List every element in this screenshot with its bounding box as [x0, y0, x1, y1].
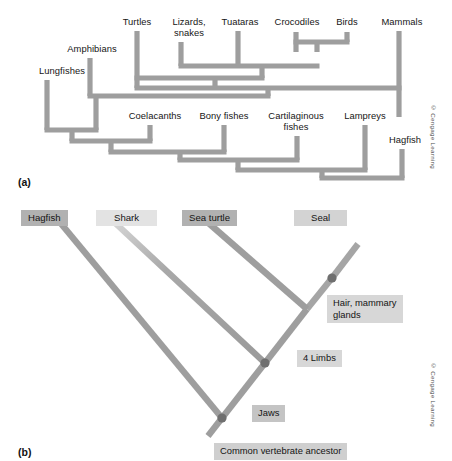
branch-shark: [112, 220, 265, 363]
taxon-box-seal: Seal: [294, 210, 347, 226]
trait-box-hair-mammary: Hair, mammary glands: [327, 295, 403, 323]
taxon-label-hagfish: Hagfish: [374, 135, 436, 146]
taxon-label-amphibians: Amphibians: [40, 44, 144, 55]
panel-b-copyright: © Cengage Learning: [430, 362, 437, 427]
taxon-label-cartilaginous-fishes: Cartilaginous fishes: [252, 111, 340, 132]
node-dot-4limbs: [260, 358, 269, 367]
figure-root: Lungfishes Amphibians Turtles Lizards, s…: [0, 0, 452, 461]
taxon-label-mammals: Mammals: [368, 17, 436, 28]
panel-a-branches: [0, 0, 452, 196]
panel-b-tag: (b): [18, 446, 31, 458]
taxon-box-sea-turtle: Sea turtle: [182, 210, 237, 226]
taxon-label-lampreys: Lampreys: [331, 111, 399, 122]
node-dot-jaws: [217, 413, 226, 422]
branch-sea-turtle: [205, 220, 307, 309]
taxon-label-coelacanths: Coelacanths: [113, 111, 197, 122]
taxon-label-birds: Birds: [320, 17, 374, 28]
taxon-box-hagfish: Hagfish: [21, 210, 68, 226]
trait-box-common-ancestor: Common vertebrate ancestor: [214, 443, 347, 460]
node-dot-hair: [327, 273, 336, 282]
taxon-box-shark: Shark: [96, 210, 157, 226]
branch-seal-tip: [332, 244, 358, 278]
trait-box-4-limbs: 4 Limbs: [297, 350, 342, 367]
panel-a-tag: (a): [18, 176, 31, 188]
panel-b-cladogram: Hagfish Shark Sea turtle Seal Hair, mamm…: [0, 196, 452, 461]
panel-b-branches: [0, 196, 452, 461]
trait-box-jaws: Jaws: [252, 405, 285, 422]
taxon-label-bony-fishes: Bony fishes: [186, 111, 262, 122]
panel-a-cladogram: Lungfishes Amphibians Turtles Lizards, s…: [0, 0, 452, 196]
panel-a-copyright: © Cengage Learning: [430, 104, 437, 169]
taxon-label-lungfishes: Lungfishes: [10, 66, 114, 77]
